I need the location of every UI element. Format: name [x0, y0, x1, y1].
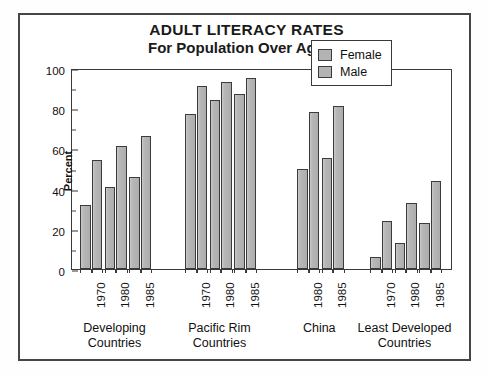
y-tick-minor-50	[72, 170, 76, 171]
y-tick-minor-90	[72, 90, 76, 91]
y-tick-label-100: 100	[46, 65, 65, 77]
x-group-label-line2: Countries	[154, 336, 285, 351]
figure-border: ADULT LITERACY RATES For Population Over…	[18, 13, 471, 361]
y-tick-40: 40	[72, 190, 78, 191]
y-tick-label-20: 20	[52, 225, 65, 237]
x-group-label-line1: Least Developed	[339, 321, 470, 336]
legend-item-male: Male	[318, 63, 382, 80]
x-year-label-1970-g3: 1970	[385, 282, 397, 308]
x-group-label-3: Least DevelopedCountries	[339, 321, 470, 351]
x-group-label-line2: Countries	[339, 336, 470, 351]
bar-female-1980-g3	[395, 243, 406, 269]
bar-female-1985-g0	[129, 177, 140, 269]
bar-male-1980-g0	[116, 146, 127, 269]
bar-female-1970-g0	[80, 205, 91, 269]
x-year-label-1985-g3: 1985	[434, 282, 446, 308]
title-block: ADULT LITERACY RATES For Population Over…	[20, 21, 473, 57]
bar-male-1980-g2	[309, 112, 320, 269]
scanned-page: ADULT LITERACY RATES For Population Over…	[0, 0, 489, 376]
x-year-label-1985-g1: 1985	[249, 282, 261, 308]
bar-male-1980-g3	[406, 203, 417, 269]
y-tick-label-40: 40	[52, 185, 65, 197]
chart-title: ADULT LITERACY RATES	[20, 21, 473, 39]
bar-male-1970-g3	[382, 221, 393, 269]
x-year-label-1985-g2: 1985	[336, 282, 348, 308]
bar-male-1985-g2	[333, 106, 344, 269]
y-tick-60: 60	[72, 150, 78, 151]
legend-label-female: Female	[340, 48, 382, 62]
legend-swatch-male	[318, 66, 332, 78]
y-tick-label-80: 80	[52, 105, 65, 117]
bar-female-1970-g3	[370, 257, 381, 269]
x-year-label-1980-g2: 1980	[312, 282, 324, 308]
y-tick-label-60: 60	[52, 145, 65, 157]
x-year-label-1985-g0: 1985	[144, 282, 156, 308]
chart-legend: Female Male	[311, 40, 392, 86]
bar-male-1970-g1	[197, 86, 208, 269]
y-tick-minor-70	[72, 130, 76, 131]
bar-male-1980-g1	[221, 82, 232, 269]
legend-label-male: Male	[340, 65, 367, 79]
y-tick-minor-30	[72, 210, 76, 211]
bar-female-1985-g3	[419, 223, 430, 269]
x-year-label-1980-g3: 1980	[409, 282, 421, 308]
y-tick-label-0: 0	[59, 266, 65, 278]
y-tick-20: 20	[72, 230, 78, 231]
y-tick-minor-10	[72, 250, 76, 251]
legend-item-female: Female	[318, 46, 382, 63]
bar-male-1985-g1	[246, 78, 257, 269]
bar-female-1985-g2	[322, 158, 333, 269]
bar-male-1985-g3	[431, 181, 442, 269]
y-tick-80: 80	[72, 110, 78, 111]
bar-female-1980-g0	[105, 187, 116, 269]
bar-female-1980-g1	[210, 100, 221, 269]
bar-female-1980-g2	[297, 169, 308, 270]
x-year-label-1970-g0: 1970	[95, 282, 107, 308]
bar-male-1985-g0	[141, 136, 152, 269]
y-tick-100: 100	[72, 70, 78, 71]
bar-male-1970-g0	[92, 160, 103, 269]
x-axis-labels: 197019801985DevelopingCountries197019801…	[71, 270, 452, 365]
x-year-label-1970-g1: 1970	[200, 282, 212, 308]
chart-subtitle: For Population Over Age 14	[20, 39, 473, 57]
x-year-label-1980-g0: 1980	[119, 282, 131, 308]
plot-area: Percent 020406080100	[71, 69, 452, 270]
legend-swatch-female	[318, 49, 332, 61]
bar-female-1985-g1	[234, 94, 245, 269]
bar-female-1970-g1	[185, 114, 196, 269]
x-year-label-1980-g1: 1980	[224, 282, 236, 308]
